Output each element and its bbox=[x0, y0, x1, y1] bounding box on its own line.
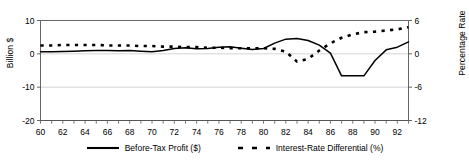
y-tick-label-left: -10 bbox=[22, 82, 35, 92]
legend-label-before-tax-profit: Before-Tax Profit ($) bbox=[125, 143, 201, 153]
x-tick-label: 86 bbox=[326, 127, 336, 137]
y-tick-label-left: -20 bbox=[22, 116, 35, 126]
x-tick-label: 68 bbox=[125, 127, 135, 137]
y-tick-label-right: -12 bbox=[415, 116, 428, 126]
legend-item-interest-rate-differential: Interest-Rate Differential (%) bbox=[237, 143, 384, 153]
y-axis-label-left: Billion $ bbox=[5, 16, 15, 90]
x-tick-label: 64 bbox=[80, 127, 90, 137]
x-tick-label: 70 bbox=[147, 127, 157, 137]
y-tick-label-right: 0 bbox=[415, 49, 420, 59]
y-tick-label-right: 6 bbox=[415, 16, 420, 26]
chart-legend: Before-Tax Profit ($) Interest-Rate Diff… bbox=[0, 143, 469, 153]
chart-plot-area: 100-10-2060-6-12606264666870727476788082… bbox=[0, 0, 469, 166]
x-tick-label: 92 bbox=[393, 127, 403, 137]
legend-label-interest-rate-differential: Interest-Rate Differential (%) bbox=[276, 143, 384, 153]
legend-item-before-tax-profit: Before-Tax Profit ($) bbox=[86, 143, 201, 153]
x-tick-label: 60 bbox=[36, 127, 46, 137]
x-tick-label: 90 bbox=[370, 127, 380, 137]
x-tick-label: 80 bbox=[259, 127, 269, 137]
x-tick-label: 72 bbox=[170, 127, 180, 137]
series-line-1 bbox=[41, 27, 409, 61]
legend-swatch-dashed-icon bbox=[237, 143, 271, 153]
chart-figure: 100-10-2060-6-12606264666870727476788082… bbox=[0, 0, 469, 166]
y-tick-label-left: 10 bbox=[25, 16, 35, 26]
series-line-0 bbox=[41, 39, 409, 76]
x-tick-label: 82 bbox=[281, 127, 291, 137]
x-tick-label: 84 bbox=[303, 127, 313, 137]
x-tick-label: 76 bbox=[214, 127, 224, 137]
x-tick-label: 62 bbox=[58, 127, 68, 137]
legend-swatch-solid-icon bbox=[86, 143, 120, 153]
x-tick-label: 74 bbox=[192, 127, 202, 137]
x-tick-label: 66 bbox=[103, 127, 113, 137]
y-tick-label-left: 0 bbox=[30, 49, 35, 59]
x-tick-label: 88 bbox=[348, 127, 358, 137]
y-axis-label-right: Percentage Rate bbox=[457, 0, 467, 91]
x-tick-label: 78 bbox=[236, 127, 246, 137]
y-tick-label-right: -6 bbox=[415, 82, 423, 92]
